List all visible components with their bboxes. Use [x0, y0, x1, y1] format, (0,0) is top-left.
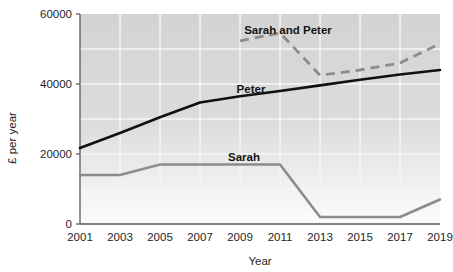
chart-figure: 60000 40000 20000 0 2001 2003 2005 2007 … — [0, 0, 453, 272]
x-tick-label: 2003 — [107, 231, 133, 243]
y-axis-title: £ per year — [6, 112, 18, 164]
line-chart: 60000 40000 20000 0 2001 2003 2005 2007 … — [0, 0, 453, 272]
x-tick-label: 2005 — [147, 231, 173, 243]
y-tick-label: 40000 — [40, 78, 72, 90]
x-tick-label: 2009 — [227, 231, 253, 243]
x-tick-label: 2001 — [67, 231, 93, 243]
x-axis-tick-labels: 2001 2003 2005 2007 2009 2011 2013 2015 … — [67, 231, 453, 243]
y-tick-label: 20000 — [40, 148, 72, 160]
x-tick-label: 2017 — [387, 231, 413, 243]
series-annotation-sarah: Sarah — [228, 151, 260, 163]
x-tick-label: 2019 — [427, 231, 453, 243]
y-tick-label: 60000 — [40, 8, 72, 20]
y-axis-tick-labels: 60000 40000 20000 0 — [40, 8, 72, 230]
x-tick-label: 2015 — [347, 231, 373, 243]
x-tick-label: 2007 — [187, 231, 213, 243]
x-tick-label: 2011 — [268, 231, 293, 243]
x-tick-label: 2013 — [307, 231, 333, 243]
series-annotation-sarah-and-peter: Sarah and Peter — [244, 24, 332, 36]
y-tick-label: 0 — [66, 218, 72, 230]
series-annotation-peter: Peter — [237, 83, 266, 95]
x-axis-title: Year — [248, 255, 271, 267]
